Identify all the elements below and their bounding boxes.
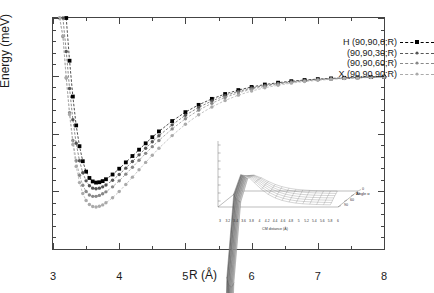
data-point xyxy=(316,79,319,82)
y-tick-minor-right xyxy=(381,99,384,100)
y-tick-major xyxy=(53,191,59,192)
data-point xyxy=(137,168,140,171)
x-tick-major-top xyxy=(384,18,385,24)
y-axis-title: Energy (meV) xyxy=(0,14,12,88)
legend-sample xyxy=(400,48,434,58)
x-tick-major-top xyxy=(53,18,54,24)
data-point xyxy=(88,176,92,180)
data-point xyxy=(88,203,91,206)
data-point xyxy=(98,194,101,197)
data-point xyxy=(88,193,91,196)
data-point xyxy=(111,196,114,199)
data-point xyxy=(97,180,101,184)
data-point xyxy=(124,160,128,164)
legend-item-2[interactable]: (90,90,60;R) xyxy=(288,58,434,69)
legend-label: (90,90,30;R) xyxy=(347,48,397,59)
data-point xyxy=(151,154,154,157)
data-point xyxy=(118,173,121,176)
inset-x-axis-title: CM distance (Å) xyxy=(220,227,330,231)
data-point xyxy=(101,192,104,195)
data-point xyxy=(111,185,114,188)
y-tick-major xyxy=(53,134,59,135)
inset-x-tick: 3.4 xyxy=(233,219,238,223)
data-point xyxy=(104,190,107,193)
x-axis-title: R (Å) xyxy=(0,268,406,282)
inset-y-tick: 60 xyxy=(350,198,354,202)
x-tick-minor-top xyxy=(152,18,153,21)
data-point xyxy=(104,201,107,204)
y-tick-minor-right xyxy=(381,87,384,88)
inset-x-tick: 4.6 xyxy=(281,219,286,223)
y-tick-minor xyxy=(53,168,56,169)
x-tick-major xyxy=(53,243,54,249)
data-point xyxy=(101,185,104,188)
x-tick-major xyxy=(252,243,253,249)
data-point xyxy=(68,87,71,90)
x-tick-major xyxy=(185,243,186,249)
data-point xyxy=(184,110,188,114)
data-point xyxy=(91,195,94,198)
data-point xyxy=(137,159,140,162)
data-point xyxy=(61,16,64,19)
data-point xyxy=(101,179,105,183)
y-tick-minor xyxy=(53,237,56,238)
y-tick-minor-right xyxy=(381,110,384,111)
legend-sample xyxy=(400,37,434,47)
x-tick-minor-top xyxy=(86,18,87,21)
data-point xyxy=(144,152,147,155)
x-tick-major-top xyxy=(185,18,186,24)
data-point xyxy=(104,177,108,181)
legend-marker xyxy=(415,40,419,44)
data-point xyxy=(74,142,77,145)
data-point xyxy=(78,144,82,148)
inset-x-tick: 4 xyxy=(258,219,260,223)
x-tick-major-top xyxy=(318,18,319,24)
data-point xyxy=(84,199,87,202)
data-point xyxy=(94,181,98,185)
plot-area: 50-5-10-15345678 H (90,90,0;R)(90,90,30;… xyxy=(52,17,385,250)
data-point xyxy=(61,34,64,37)
x-tick-minor xyxy=(285,246,286,249)
x-tick-minor-top xyxy=(351,18,352,21)
legend-marker xyxy=(416,72,419,75)
x-tick-minor xyxy=(351,246,352,249)
data-point xyxy=(210,102,213,105)
data-point xyxy=(64,16,68,20)
data-point xyxy=(223,99,226,102)
legend-item-1[interactable]: (90,90,30;R) xyxy=(288,48,434,59)
data-point xyxy=(197,108,200,111)
y-tick-minor-right xyxy=(381,30,384,31)
data-point xyxy=(68,59,72,63)
data-point xyxy=(84,190,87,193)
data-point xyxy=(157,134,160,137)
legend-item-0[interactable]: H (90,90,0;R) xyxy=(288,37,434,48)
inset-x-tick: 5.4 xyxy=(312,219,317,223)
data-point xyxy=(237,93,240,96)
data-point xyxy=(144,161,147,164)
inset-x-tick: 3.6 xyxy=(241,219,246,223)
inset-x-tick: 5.8 xyxy=(328,219,333,223)
data-point xyxy=(124,172,127,175)
data-point xyxy=(71,95,75,99)
legend-item-3[interactable]: X (90,90,90;R) xyxy=(288,69,434,80)
data-point xyxy=(94,205,97,208)
y-tick-minor xyxy=(53,110,56,111)
inset-x-tick: 5 xyxy=(298,219,300,223)
data-point xyxy=(65,76,68,79)
inset-y-tick: 30 xyxy=(356,192,360,196)
data-point xyxy=(71,143,74,146)
x-tick-major xyxy=(384,243,385,249)
data-point xyxy=(111,173,115,177)
data-point xyxy=(250,89,253,92)
x-tick-major-top xyxy=(119,18,120,24)
x-tick-minor-top xyxy=(219,18,220,21)
legend: H (90,90,0;R)(90,90,30;R)(90,90,60;R)X (… xyxy=(288,37,434,79)
data-point xyxy=(98,205,101,208)
y-tick-minor xyxy=(53,30,56,31)
y-tick-minor xyxy=(53,87,56,88)
y-tick-minor xyxy=(53,214,56,215)
y-tick-minor xyxy=(53,180,56,181)
data-point xyxy=(131,154,135,158)
data-point xyxy=(184,114,187,117)
y-tick-major xyxy=(53,76,59,77)
